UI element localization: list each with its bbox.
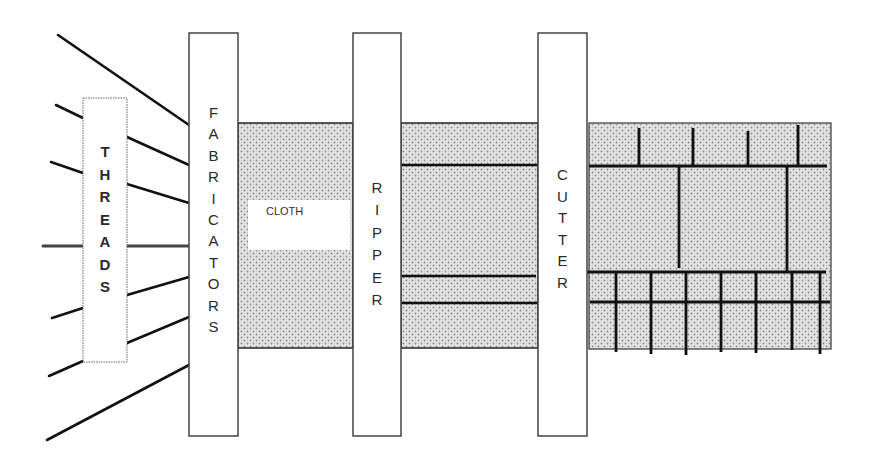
thread-line-7 xyxy=(47,365,189,440)
thread-line-6a xyxy=(49,361,83,376)
thread-line-2a xyxy=(56,105,83,118)
threads-to-cloth-pipeline-diagram xyxy=(0,0,875,465)
thread-line-3b xyxy=(127,184,189,203)
thread-line-5a xyxy=(52,308,83,318)
thread-line-6b xyxy=(127,317,189,343)
cloth-label-box xyxy=(248,200,350,250)
threads-box xyxy=(83,98,127,362)
thread-line-3a xyxy=(51,162,83,173)
ripper-box xyxy=(353,33,401,436)
cut-pieces-region xyxy=(589,123,831,349)
ripped-cloth-region xyxy=(401,123,538,348)
thread-line-5b xyxy=(127,277,189,295)
thread-line-2b xyxy=(127,137,189,165)
fabricators-box xyxy=(189,33,238,436)
cutter-box xyxy=(538,33,587,436)
